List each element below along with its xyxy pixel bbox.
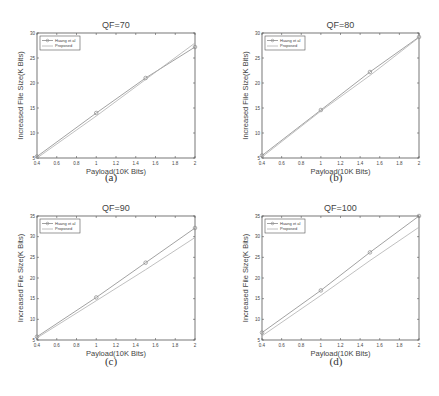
x-tick-label: 1.6 [152,343,159,348]
x-tick-label: 0.8 [73,343,80,348]
legend-label: Huang et al [55,38,76,43]
chart-panel-a: QF=700.40.60.811.21.41.61.8251015202530P… [0,0,219,196]
y-tick-label: 10 [30,131,36,136]
series-line-proposed [262,38,419,158]
x-tick-label: 1.8 [396,161,403,166]
y-tick-label: 15 [30,296,36,301]
x-tick-label: 1.2 [337,343,344,348]
x-tick-label: 0.4 [259,161,266,166]
chart-title: QF=90 [102,203,130,213]
x-tick-label: 0.4 [259,343,266,348]
y-tick-label: 25 [30,255,36,260]
series-line-proposed [262,227,419,336]
y-tick-label: 10 [255,317,261,322]
y-tick-label: 25 [30,56,36,61]
x-tick-label: 2 [194,343,197,348]
y-tick-label: 35 [30,214,36,219]
y-tick-label: 5 [32,338,35,343]
x-tick-label: 1.4 [357,161,364,166]
series-line-proposed [37,43,195,158]
x-tick-label: 1 [95,161,98,166]
x-tick-label: 2 [418,343,421,348]
x-tick-label: 1.2 [337,161,344,166]
x-tick-label: 1.6 [377,343,384,348]
x-tick-label: 2 [194,161,197,166]
series-line-huang [37,228,195,337]
caption-b: (b) [316,171,356,183]
x-tick-label: 1.6 [152,161,159,166]
legend-label: Proposed [55,226,72,231]
x-tick-label: 0.6 [54,161,61,166]
y-tick-label: 25 [255,255,261,260]
y-tick-label: 30 [255,31,261,36]
chart-svg: QF=800.40.60.811.21.41.61.8251015202530P… [220,0,439,196]
caption-d: (d) [316,355,356,367]
x-tick-label: 0.6 [278,343,285,348]
chart-panel-d: QF=1000.40.60.811.21.41.61.8251015202530… [220,200,439,396]
y-tick-label: 25 [255,56,261,61]
legend-label: Proposed [55,43,72,48]
y-tick-label: 30 [30,31,36,36]
legend-label: Huang et al [280,221,301,226]
legend-label: Huang et al [55,221,76,226]
y-tick-label: 10 [255,131,261,136]
x-tick-label: 1.2 [113,161,120,166]
y-tick-label: 5 [257,338,260,343]
x-tick-label: 0.8 [298,161,305,166]
x-tick-label: 1 [95,343,98,348]
x-tick-label: 1.4 [357,343,364,348]
y-tick-label: 20 [30,81,36,86]
series-line-proposed [37,238,195,338]
x-tick-label: 1 [320,343,323,348]
x-tick-label: 1.4 [133,343,140,348]
chart-svg: QF=700.40.60.811.21.41.61.8251015202530P… [0,0,219,196]
caption-a: (a) [91,171,131,183]
y-axis-label: Increased File Size(K Bits) [16,233,25,322]
x-tick-label: 1 [320,161,323,166]
x-tick-label: 0.4 [34,343,41,348]
legend-label: Huang et al [280,38,301,43]
y-tick-label: 20 [255,81,261,86]
x-tick-label: 1.8 [172,343,179,348]
y-axis-label: Increased File Size(K Bits) [241,51,250,140]
x-tick-label: 0.6 [54,343,61,348]
x-tick-label: 1.8 [172,161,179,166]
x-tick-label: 0.4 [34,161,41,166]
chart-panel-b: QF=800.40.60.811.21.41.61.8251015202530P… [220,0,439,196]
y-tick-label: 20 [30,276,36,281]
x-tick-label: 0.8 [298,343,305,348]
y-tick-label: 10 [30,317,36,322]
plot-frame [262,33,419,158]
y-axis-label: Increased File Size(K Bits) [241,233,250,322]
x-tick-label: 2 [418,161,421,166]
y-tick-label: 30 [30,234,36,239]
plot-frame [262,216,419,340]
y-tick-label: 15 [255,106,261,111]
series-line-huang [262,37,419,156]
chart-title: QF=70 [102,20,130,30]
x-tick-label: 1.2 [113,343,120,348]
y-tick-label: 35 [255,214,261,219]
x-tick-label: 1.6 [377,161,384,166]
y-tick-label: 30 [255,234,261,239]
x-tick-label: 1.8 [396,343,403,348]
chart-title: QF=100 [324,203,357,213]
y-tick-label: 15 [255,296,261,301]
y-axis-label: Increased File Size(K Bits) [16,51,25,140]
legend-label: Proposed [280,226,297,231]
y-tick-label: 15 [30,106,36,111]
x-tick-label: 0.8 [73,161,80,166]
chart-panel-c: QF=900.40.60.811.21.41.61.82510152025303… [0,200,219,396]
legend-label: Proposed [280,43,297,48]
series-line-huang [262,216,419,333]
caption-c: (c) [91,355,131,367]
y-tick-label: 20 [255,276,261,281]
x-tick-label: 1.4 [133,161,140,166]
chart-title: QF=80 [327,20,355,30]
x-tick-label: 0.6 [278,161,285,166]
